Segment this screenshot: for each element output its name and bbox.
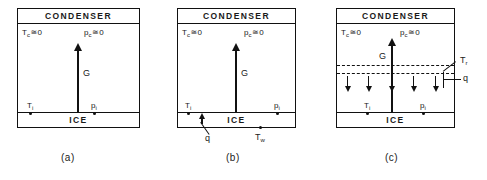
pc-value-c: 0 bbox=[415, 28, 419, 37]
condenser-band-c: CONDENSER bbox=[337, 9, 454, 24]
down-arrow-head-c-5 bbox=[433, 86, 439, 92]
temp-interface-label-c: Ti bbox=[364, 102, 370, 110]
down-arrow-head-c-2 bbox=[366, 86, 372, 92]
approx-icon-c2: ≅ bbox=[407, 28, 415, 37]
down-arrow-head-c-1 bbox=[345, 86, 351, 92]
q-flux-label-c: q bbox=[463, 74, 468, 83]
radiant-dashed-line-lower-c bbox=[337, 73, 454, 74]
caption-c: (c) bbox=[385, 153, 398, 163]
ti-subscript-c: i bbox=[369, 105, 370, 111]
temp-radiant-label-c: Tr bbox=[460, 56, 468, 65]
temp-condenser-label-c: Tc≅0 bbox=[341, 29, 361, 37]
pi-subscript-c: i bbox=[424, 105, 425, 111]
ice-band-c: ICE bbox=[337, 112, 454, 127]
ice-label-c: ICE bbox=[386, 116, 404, 125]
pres-interface-label-c: pi bbox=[420, 102, 426, 110]
radiant-dashed-line-upper-c bbox=[337, 65, 454, 66]
tc-subscript-c: c bbox=[346, 32, 349, 38]
down-arrow-head-c-4 bbox=[411, 86, 417, 92]
g-flux-label-c: G bbox=[379, 52, 386, 61]
pres-condenser-label-c: pc≅0 bbox=[400, 29, 420, 37]
panel-c: CONDENSER ICE Tc≅0 pc≅0 G Tr q Ti pi bbox=[0, 0, 487, 180]
condenser-label-c: CONDENSER bbox=[362, 12, 429, 21]
chamber-box-c: CONDENSER ICE bbox=[336, 8, 455, 128]
down-arrow-head-c-3 bbox=[389, 86, 395, 92]
pres-interface-dot-c bbox=[422, 112, 425, 115]
temp-interface-dot-c bbox=[366, 112, 369, 115]
q-leader-line-c bbox=[443, 79, 461, 80]
tc-value-c: 0 bbox=[357, 28, 361, 37]
approx-icon-c1: ≅ bbox=[349, 28, 357, 37]
tr-symbol-c: T bbox=[460, 55, 466, 65]
tr-subscript-c: r bbox=[466, 60, 468, 66]
